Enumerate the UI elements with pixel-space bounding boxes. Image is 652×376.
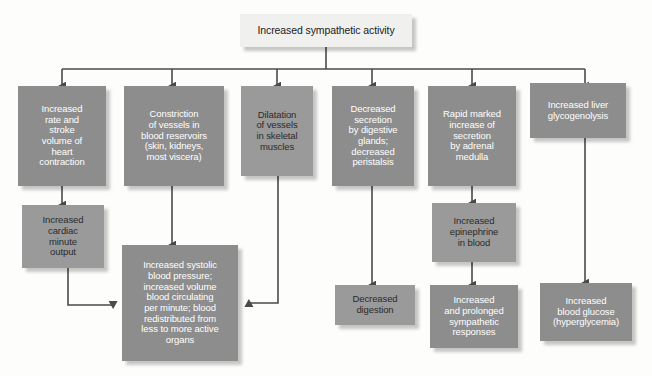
- node-label: Increased and prolonged sympathetic resp…: [433, 295, 515, 338]
- node-vasodilatation[interactable]: Dilatation of vessels in skeletal muscle…: [241, 86, 313, 176]
- node-label: Dilatation of vessels in skeletal muscle…: [244, 110, 310, 153]
- node-label: Decreased digestion: [338, 294, 412, 315]
- node-label: Constriction of vessels in blood reservo…: [127, 109, 221, 163]
- node-label: Increased blood glucose (hyperglycemia): [543, 296, 629, 328]
- node-increased-sympathetic-activity[interactable]: Increased sympathetic activity: [240, 14, 412, 47]
- node-digestive-secretion[interactable]: Decreased secretion by digestive glands;…: [332, 86, 414, 186]
- node-epinephrine[interactable]: Increased epinephrine in blood: [432, 203, 516, 262]
- node-heart-rate[interactable]: Increased rate and stroke volume of hear…: [18, 86, 106, 186]
- node-label: Increased epinephrine in blood: [435, 216, 513, 248]
- node-label: Increased cardiac minute output: [25, 215, 101, 258]
- node-systolic-pressure[interactable]: Increased systolic blood pressure; incre…: [122, 245, 238, 361]
- node-label: Increased sympathetic activity: [243, 25, 409, 37]
- node-label: Increased systolic blood pressure; incre…: [125, 260, 235, 346]
- connector-vasodilatation-to-systolic: [249, 176, 278, 303]
- node-label: Rapid marked increase of secretion by ad…: [431, 109, 513, 163]
- node-liver-glycogenolysis[interactable]: Increased liver glycogenolysis: [530, 83, 626, 138]
- node-vasoconstriction[interactable]: Constriction of vessels in blood reservo…: [124, 86, 224, 186]
- node-decreased-digestion[interactable]: Decreased digestion: [335, 285, 415, 325]
- sympathetic-activity-flowchart: Increased sympathetic activity Increased…: [0, 0, 652, 376]
- node-cardiac-output[interactable]: Increased cardiac minute output: [22, 205, 104, 268]
- connector-cardiac-output-to-systolic: [68, 268, 113, 305]
- node-sympathetic-responses[interactable]: Increased and prolonged sympathetic resp…: [430, 285, 518, 348]
- node-label: Increased rate and stroke volume of hear…: [21, 104, 103, 168]
- node-label: Increased liver glycogenolysis: [533, 100, 623, 121]
- node-blood-glucose[interactable]: Increased blood glucose (hyperglycemia): [540, 283, 632, 341]
- node-label: Decreased secretion by digestive glands;…: [335, 104, 411, 168]
- node-adrenal-medulla[interactable]: Rapid marked increase of secretion by ad…: [428, 86, 516, 186]
